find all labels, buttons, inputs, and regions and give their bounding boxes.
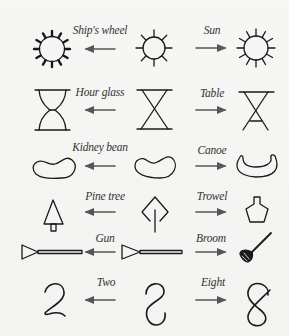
table-icon (239, 92, 274, 130)
label-pine-tree: Pine tree (85, 190, 125, 202)
kidney-bean-icon (33, 158, 75, 178)
label-trowel: Trowel (197, 190, 227, 202)
bean-ambiguous-icon (135, 157, 175, 178)
gun-icon (22, 245, 82, 259)
figures-svg (0, 0, 289, 336)
x-shape-ambiguous-icon (137, 90, 172, 129)
label-ships-wheel: Ship's wheel (73, 24, 128, 36)
label-hour-glass: Hour glass (76, 86, 125, 98)
ships-wheel-icon (34, 31, 70, 67)
gun-ambiguous-icon (122, 245, 182, 259)
label-table: Table (200, 87, 224, 99)
label-canoe: Canoe (197, 144, 226, 156)
sun-ambiguous-icon (136, 30, 172, 66)
broom-icon (240, 233, 271, 262)
label-two: Two (97, 276, 115, 288)
two-icon (45, 284, 65, 316)
label-sun: Sun (204, 24, 221, 36)
canoe-icon (237, 155, 277, 177)
label-gun: Gun (95, 232, 114, 244)
trowel-icon (246, 197, 268, 222)
diagram-canvas: Ship's wheel Sun Hour glass Table Kidney… (0, 0, 289, 336)
label-kidney-bean: Kidney bean (72, 141, 128, 153)
s-curve-ambiguous-icon (146, 284, 165, 325)
diamond-ambiguous-icon (142, 197, 168, 232)
hour-glass-icon (35, 90, 70, 130)
label-eight: Eight (201, 276, 225, 288)
label-broom: Broom (196, 232, 226, 244)
pine-tree-icon (44, 200, 63, 231)
eight-icon (248, 284, 270, 326)
sun-icon (237, 29, 275, 67)
